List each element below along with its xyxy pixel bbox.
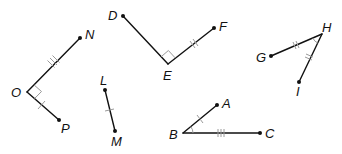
- point-N: [78, 36, 82, 40]
- point-D: [121, 14, 125, 18]
- point-L: [103, 88, 107, 92]
- angle-NOP: N O P: [11, 27, 95, 136]
- label-B: B: [169, 127, 178, 142]
- label-E: E: [163, 68, 172, 83]
- right-angle-marker-E: [161, 51, 175, 58]
- segment-DE: [123, 16, 168, 64]
- segment-HI: [299, 34, 322, 82]
- point-M: [113, 129, 117, 133]
- angle-arc-H: [313, 38, 318, 43]
- segment-EF: [168, 28, 214, 64]
- label-C: C: [265, 126, 275, 141]
- label-I: I: [296, 84, 300, 99]
- point-C: [258, 131, 262, 135]
- angle-GHI: G H I: [256, 20, 332, 99]
- label-H: H: [322, 20, 332, 35]
- label-M: M: [111, 134, 122, 149]
- label-D: D: [108, 8, 117, 23]
- label-N: N: [85, 27, 95, 42]
- point-A: [215, 103, 219, 107]
- label-P: P: [61, 121, 70, 136]
- angle-DEF: D E F: [108, 8, 228, 83]
- single-tick-BA: [197, 115, 203, 123]
- geometry-diagram: N O P D E F: [0, 0, 342, 154]
- right-angle-marker-O: [34, 85, 42, 99]
- segment-ON: [27, 38, 80, 92]
- label-O: O: [11, 85, 21, 100]
- segment-LM-group: L M: [100, 73, 122, 149]
- angle-ABC: A B C: [169, 96, 275, 142]
- segment-GH: [271, 34, 322, 56]
- label-A: A: [221, 96, 231, 111]
- label-L: L: [100, 73, 107, 88]
- label-F: F: [219, 19, 228, 34]
- angle-arc-B: [191, 127, 193, 133]
- segment-OP: [27, 92, 59, 120]
- point-F: [212, 26, 216, 30]
- label-G: G: [256, 50, 266, 65]
- point-G: [269, 54, 273, 58]
